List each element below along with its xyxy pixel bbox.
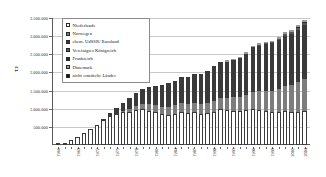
bar-segment xyxy=(225,110,229,145)
x-tick-mark xyxy=(162,147,163,149)
stacked-bar xyxy=(121,103,125,145)
x-tick-label: 1966 xyxy=(56,148,61,157)
bar-segment xyxy=(147,87,151,104)
bar-segment xyxy=(160,85,164,107)
x-tick-mark xyxy=(149,147,150,149)
stacked-bar xyxy=(186,77,190,145)
bar-segment xyxy=(205,103,209,114)
legend-swatch-icon xyxy=(66,57,70,61)
bar-segment xyxy=(257,110,261,145)
bar-segment xyxy=(277,40,281,89)
bar-segment xyxy=(108,116,112,145)
bar-segment xyxy=(160,114,164,145)
x-tick-label: 1978 xyxy=(134,148,139,157)
y-tick-label: 500.000 xyxy=(33,124,48,129)
legend-label: Niederlande xyxy=(73,23,96,28)
legend-item[interactable]: Vereinigtes Königreich xyxy=(66,46,146,54)
stacked-bar xyxy=(238,57,242,145)
bar-segment xyxy=(231,60,235,98)
bar-segment xyxy=(264,111,268,145)
x-tick-label: 2004 xyxy=(302,148,307,157)
bar-segment xyxy=(244,95,248,110)
bar-segment xyxy=(231,111,235,145)
bar-segment xyxy=(153,86,157,106)
legend-item[interactable]: ehem. UdSSR/ Russland xyxy=(66,38,146,46)
x-tick-mark xyxy=(246,147,247,149)
legend-label: Norwegen xyxy=(73,31,93,36)
legend-swatch-icon xyxy=(66,48,70,52)
stacked-bar xyxy=(192,74,196,145)
x-tick-mark xyxy=(84,147,85,149)
bar-segment xyxy=(277,112,281,145)
bar-segment xyxy=(212,112,216,145)
bar-segment xyxy=(205,113,209,145)
x-axis-tick-labels: 1966196919721975197819811984198719901993… xyxy=(52,147,310,177)
x-tick-label: 1975 xyxy=(114,148,119,157)
x-tick-label: 1969 xyxy=(75,148,80,157)
bar-segment xyxy=(63,143,67,145)
stacked-bar xyxy=(218,62,222,145)
bar-segment xyxy=(283,36,287,86)
bar-segment xyxy=(283,111,287,145)
x-tick-mark xyxy=(143,147,144,149)
bar-segment xyxy=(82,133,86,145)
x-tick-mark xyxy=(104,147,105,149)
bar-segment xyxy=(147,111,151,145)
legend-item[interactable]: Dänemark xyxy=(66,63,146,71)
stacked-bar xyxy=(127,98,131,145)
bar-segment xyxy=(218,109,222,145)
bar-segment xyxy=(264,44,268,90)
stacked-bar xyxy=(179,77,183,145)
legend-swatch-icon xyxy=(66,65,70,69)
legend-item[interactable]: nicht ermittelte Länder xyxy=(66,71,146,79)
x-tick-mark xyxy=(285,147,286,149)
x-tick-label: 1972 xyxy=(95,148,100,157)
bar-segment xyxy=(140,89,144,104)
legend-item[interactable]: Frankreich xyxy=(66,55,146,63)
stacked-bar xyxy=(88,129,92,145)
stacked-bar xyxy=(95,125,99,145)
legend-item[interactable]: Niederlande xyxy=(66,21,146,29)
y-tick-label: 3.500.000 xyxy=(30,16,48,21)
x-tick-label: 1990 xyxy=(211,148,216,157)
stacked-bar xyxy=(134,93,138,145)
x-tick-mark xyxy=(220,147,221,149)
stacked-bar xyxy=(63,143,67,145)
stacked-bar xyxy=(160,85,164,145)
bar-segment xyxy=(296,30,300,82)
stacked-bar xyxy=(82,133,86,145)
bar-segment xyxy=(238,111,242,145)
stacked-bar xyxy=(56,143,60,145)
stacked-bar xyxy=(231,59,235,145)
bar-segment xyxy=(244,54,248,95)
legend-label: Dänemark xyxy=(73,65,93,70)
bar-segment xyxy=(173,105,177,113)
stacked-bar xyxy=(296,25,300,145)
x-tick-label: 1999 xyxy=(270,148,275,157)
bar-segment xyxy=(179,112,183,145)
x-tick-mark xyxy=(181,147,182,149)
stacked-bar xyxy=(257,43,261,145)
bar-segment xyxy=(56,143,60,145)
legend-item[interactable]: Norwegen xyxy=(66,29,146,37)
bar-segment xyxy=(153,112,157,145)
y-tick-label: 3.000.000 xyxy=(30,34,48,39)
bar-segment xyxy=(179,77,183,103)
y-tick-label: 1.500.000 xyxy=(30,88,48,93)
x-tick-label: 1981 xyxy=(153,148,158,157)
x-tick-label: 2002 xyxy=(289,148,294,157)
x-tick-mark xyxy=(201,147,202,149)
bar-segment xyxy=(257,46,261,92)
x-tick-mark xyxy=(91,147,92,149)
bar-segment xyxy=(179,103,183,112)
y-axis-title: TJ xyxy=(14,66,19,72)
bar-segment xyxy=(218,98,222,110)
x-tick-mark xyxy=(207,147,208,149)
bar-segment xyxy=(302,111,306,145)
bar-segment xyxy=(173,81,177,106)
bar-segment xyxy=(186,113,190,145)
stacked-bar xyxy=(153,86,157,146)
bar-segment xyxy=(264,91,268,111)
bar-segment xyxy=(199,104,203,114)
bar-segment xyxy=(244,110,248,145)
